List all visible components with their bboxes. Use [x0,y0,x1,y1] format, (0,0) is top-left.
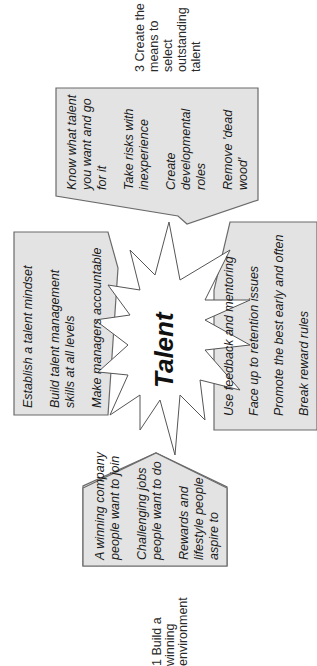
svg-text:inexperience: inexperience [137,119,151,190]
svg-text:environment: environment [176,597,190,666]
environment-items: A winning company people want to join Ch… [93,451,221,561]
svg-text:select: select [161,39,175,72]
svg-text:Know what talent: Know what talent [65,94,79,190]
svg-text:people want to do: people want to do [150,461,164,561]
center-label: Talent [149,311,179,388]
svg-text:Make managers accountable: Make managers accountable [90,247,104,408]
svg-text:lifestyle people: lifestyle people [192,477,206,560]
svg-text:Take risks with: Take risks with [122,108,136,190]
section-label-build: 1 Build a winning environment [150,597,190,666]
svg-text:aspire to: aspire to [207,512,221,560]
svg-text:Remove 'dead: Remove 'dead [221,109,235,190]
svg-text:3 Create the: 3 Create the [133,3,147,72]
svg-text:you want and go: you want and go [80,98,94,191]
svg-text:Break reward rules: Break reward rules [297,311,311,416]
svg-text:for it: for it [95,165,109,190]
svg-text:people want to join: people want to join [108,456,122,561]
section-label-select: 3 Create the means to select outstanding… [133,3,203,72]
svg-text:Establish a talent mindset: Establish a talent mindset [21,265,35,408]
svg-text:Promote the best early and oft: Promote the best early and often [272,235,286,416]
talent-diagram: Talent 3 Create the means to select outs… [0,0,317,666]
svg-text:A winning company: A winning company [93,451,107,561]
svg-text:winning: winning [163,624,177,666]
svg-text:Create: Create [164,152,178,190]
svg-text:roles: roles [194,163,208,190]
svg-text:wood': wood' [236,157,250,190]
svg-text:Use feedback and mentoring: Use feedback and mentoring [222,256,236,416]
svg-text:talent: talent [189,41,203,72]
svg-text:developmental: developmental [179,107,193,190]
svg-text:Build talent management: Build talent management [48,269,62,408]
svg-text:skills at all levels: skills at all levels [63,316,77,408]
svg-text:Rewards and: Rewards and [177,485,191,560]
svg-text:outstanding: outstanding [175,7,189,72]
svg-text:1 Build a: 1 Build a [150,617,164,666]
svg-text:Challenging jobs: Challenging jobs [135,468,149,560]
svg-text:Face up to retention issues: Face up to retention issues [247,266,261,416]
svg-text:means to: means to [147,21,161,72]
